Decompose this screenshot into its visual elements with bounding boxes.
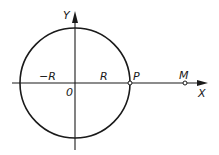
positive-radius-label: R <box>100 70 108 83</box>
x-axis-label: X <box>197 87 206 100</box>
point-p-label: P <box>133 70 140 83</box>
origin-label: 0 <box>66 86 73 99</box>
x-axis-arrow-icon <box>197 80 208 86</box>
y-axis-label: Y <box>63 9 71 22</box>
negative-radius-label: −R <box>39 70 56 83</box>
diagram-canvas: Y X 0 −R R P M <box>0 0 219 155</box>
point-p-marker <box>128 81 132 85</box>
y-axis-arrow-icon <box>72 11 78 23</box>
point-m-label: M <box>179 69 189 82</box>
